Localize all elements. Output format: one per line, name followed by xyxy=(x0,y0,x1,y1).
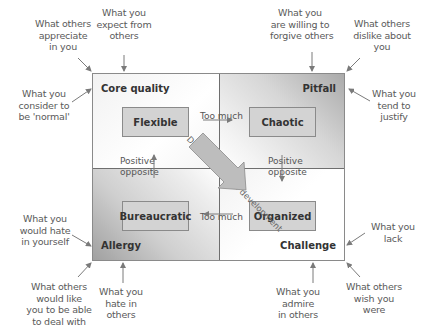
arrow-desired-development xyxy=(189,133,246,190)
arrow-wish xyxy=(347,263,360,277)
arrow-dislike xyxy=(347,58,360,71)
arrow-hate-yourself xyxy=(72,235,91,246)
arrows-layer xyxy=(0,0,429,336)
arrow-justify xyxy=(349,89,370,101)
arrow-appreciate xyxy=(78,58,91,71)
arrow-normal xyxy=(72,89,91,102)
arrow-lack xyxy=(347,233,365,245)
arrow-deal-with xyxy=(78,263,91,277)
